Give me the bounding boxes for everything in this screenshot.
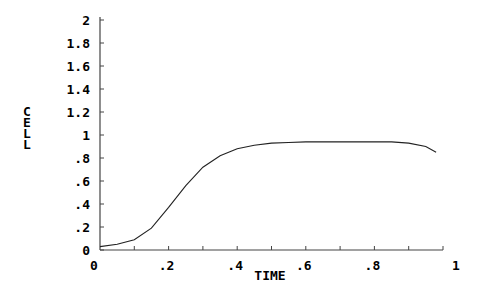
- x-axis-title: TIME: [254, 268, 285, 283]
- x-tick-label: .8: [365, 258, 381, 273]
- y-axis-title-letter: L: [23, 137, 31, 152]
- y-tick-label: 1.6: [67, 59, 91, 74]
- y-tick-label: 1.4: [67, 82, 91, 97]
- y-tick-label: 1.2: [67, 105, 90, 120]
- y-axis-title: CELL: [23, 104, 31, 152]
- line-chart: 0.2.4.6.811.21.41.61.820.2.4.6.81 TIME C…: [0, 0, 477, 295]
- y-tick-label: 1: [82, 128, 90, 143]
- y-tick-label: .4: [74, 197, 90, 212]
- x-tick-label: .6: [296, 258, 312, 273]
- y-tick-label: .6: [74, 174, 90, 189]
- series-line-cell: [100, 142, 436, 247]
- y-tick-label: .8: [74, 151, 90, 166]
- x-tick-label: .2: [159, 258, 175, 273]
- y-tick-label: 0: [82, 243, 90, 258]
- ticks: [100, 20, 443, 250]
- y-tick-label: .2: [74, 220, 90, 235]
- y-tick-label: 2: [82, 13, 90, 28]
- x-tick-label: 1: [452, 258, 460, 273]
- x-tick-label: 0: [90, 258, 98, 273]
- axes: [100, 17, 443, 250]
- x-tick-label: .4: [227, 258, 243, 273]
- series-group: [100, 142, 436, 247]
- y-tick-label: 1.8: [67, 36, 91, 51]
